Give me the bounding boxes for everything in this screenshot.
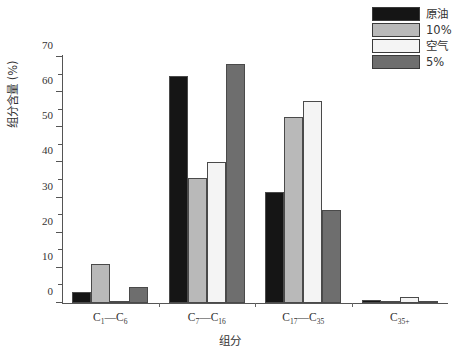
y-axis-title: 组分含量 (%)	[4, 60, 20, 128]
x-axis-category-label: C7—C16	[159, 311, 256, 326]
bar	[265, 192, 284, 303]
x-axis-tick	[159, 303, 160, 307]
y-axis-tick-major	[56, 197, 62, 198]
y-axis-tick-major	[56, 91, 62, 92]
legend-item[interactable]: 空气	[372, 38, 452, 54]
legend-swatch-icon	[372, 23, 420, 37]
bar	[303, 101, 322, 303]
bar	[381, 301, 400, 303]
y-axis-tick-label: 10	[42, 250, 53, 262]
y-axis-tick-major	[56, 126, 62, 127]
bar	[91, 264, 110, 303]
legend-swatch-icon	[372, 39, 420, 53]
x-axis-category-label: C1—C6	[62, 311, 159, 326]
bar	[419, 301, 438, 303]
y-axis-tick-minor	[58, 214, 62, 215]
y-axis-tick-label: 0	[48, 285, 54, 297]
y-axis-tick-label: 30	[42, 180, 53, 192]
bar	[169, 76, 188, 303]
x-axis-category-label: C17—C35	[255, 311, 352, 326]
y-axis-tick-major	[56, 161, 62, 162]
bar	[322, 210, 341, 303]
y-axis-tick-label: 50	[42, 109, 53, 121]
bar	[129, 287, 148, 303]
bar	[207, 162, 226, 303]
y-axis-tick-minor	[58, 249, 62, 250]
x-axis-tick	[352, 303, 353, 307]
x-axis-title: 组分	[0, 332, 459, 348]
bar-chart: 原油10%空气5% 组分含量 (%) 组分 010203040506070 C1…	[0, 0, 459, 354]
plot-area: 010203040506070	[62, 57, 448, 303]
y-axis-tick-major	[56, 302, 62, 303]
legend-item[interactable]: 原油	[372, 6, 452, 22]
y-axis-tick-major	[56, 267, 62, 268]
y-axis-tick-minor	[58, 109, 62, 110]
y-axis-tick-major	[56, 232, 62, 233]
y-axis-tick-minor	[58, 179, 62, 180]
y-axis-tick-label: 60	[42, 74, 53, 86]
bar	[72, 292, 91, 303]
legend-label: 空气	[426, 39, 448, 53]
bar	[400, 297, 419, 303]
legend-item[interactable]: 10%	[372, 22, 452, 38]
y-axis-tick-minor	[58, 144, 62, 145]
legend-label: 原油	[426, 7, 448, 21]
legend-label: 10%	[426, 23, 452, 37]
bar	[188, 178, 207, 303]
y-axis-tick-major	[56, 56, 62, 57]
bar	[110, 301, 129, 303]
x-axis-category-label: C35+	[352, 311, 449, 326]
bar	[284, 117, 303, 303]
y-axis-tick-minor	[58, 74, 62, 75]
x-axis-tick	[255, 303, 256, 307]
bar	[226, 64, 245, 303]
y-axis-tick-label: 20	[42, 215, 53, 227]
y-axis-tick-label: 40	[42, 144, 53, 156]
y-axis-tick-minor	[58, 284, 62, 285]
y-axis-tick-label: 70	[42, 39, 53, 51]
legend-swatch-icon	[372, 7, 420, 21]
bar	[362, 300, 381, 304]
